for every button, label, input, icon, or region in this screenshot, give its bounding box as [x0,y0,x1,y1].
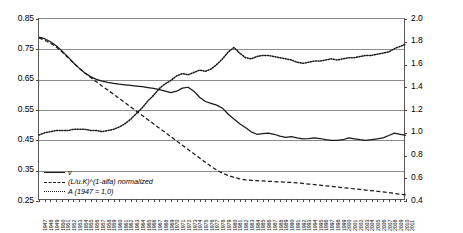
legend-label: v [68,168,72,177]
tick-mark-x [406,199,407,202]
y-tick-left: 0.45 [0,134,34,144]
y-tick-left: 0.85 [0,13,34,23]
chart-container: 0.850.750.650.550.450.350.25 2.01.81.61.… [0,0,463,233]
y-tick-left: 0.55 [0,104,34,114]
y-tick-right: 0.6 [411,172,441,182]
y-tick-right: 1.8 [411,35,441,45]
series-line [39,37,406,140]
x-tick-label: 1968 [163,220,169,231]
x-tick-label: 1991 [295,220,301,231]
y-tick-left: 0.75 [0,43,34,53]
y-tick-left: 0.25 [0,195,34,205]
y-tick-left: 0.65 [0,73,34,83]
y-tick-right: 2.0 [411,13,441,23]
x-tick-label: 2006 [381,220,387,231]
legend-swatch-dashed [44,178,65,187]
x-tick-label: 1983 [249,220,255,231]
legend-label: (L/u.K)^(1-alfa) normalized [68,177,153,186]
legend-item: v [44,168,153,177]
x-tick-label: 2002 [358,220,364,231]
legend-swatch-dotted [44,187,65,196]
legend-item: (L/u.K)^(1-alfa) normalized [44,177,153,186]
legend-item: A (1947 = 1,0) [44,187,153,196]
y-tick-left: 0.35 [0,164,34,174]
y-tick-right: 0.8 [411,149,441,159]
y-tick-right: 1.0 [411,126,441,136]
x-tick-label: 1957 [100,220,106,231]
x-axis-labels: 1947194819491950195119521953195419551956… [38,201,405,233]
x-tick-label: 2011 [409,220,415,231]
chart-legend: v(L/u.K)^(1-alfa) normalizedA (1947 = 1,… [44,168,153,196]
legend-swatch-solid [44,168,65,177]
legend-label: A (1947 = 1,0) [68,187,113,196]
x-tick-label: 1998 [335,220,341,231]
y-tick-right: 0.4 [411,195,441,205]
x-tick-label: 1972 [186,220,192,231]
y-tick-right: 1.2 [411,104,441,114]
x-tick-label: 1987 [272,220,278,231]
y-tick-right: 1.6 [411,58,441,68]
y-tick-right: 1.4 [411,81,441,91]
x-tick-label: 1953 [77,220,83,231]
series-line [39,44,406,135]
